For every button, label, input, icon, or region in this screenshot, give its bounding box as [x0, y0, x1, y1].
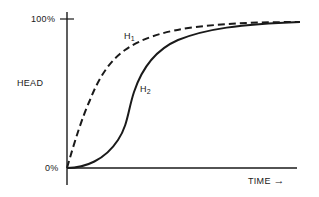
y-tick-label-0: 0% — [45, 163, 59, 173]
x-axis-label: TIME → — [248, 174, 285, 186]
h2-label-main: H — [140, 84, 147, 94]
h1-label-sub: 1 — [131, 35, 135, 42]
series-h1-label: H1 — [124, 31, 135, 41]
h2-label-sub: 2 — [147, 88, 151, 95]
y-axis-label: HEAD — [17, 78, 43, 88]
h1-label-main: H — [124, 31, 131, 41]
y-tick-label-100: 100% — [31, 14, 55, 24]
arrow-right-icon: → — [274, 174, 285, 186]
series-h2-label: H2 — [140, 84, 151, 94]
series-h1-line — [67, 22, 300, 168]
series-h2-line — [67, 22, 300, 168]
x-axis-label-text: TIME — [248, 176, 271, 186]
